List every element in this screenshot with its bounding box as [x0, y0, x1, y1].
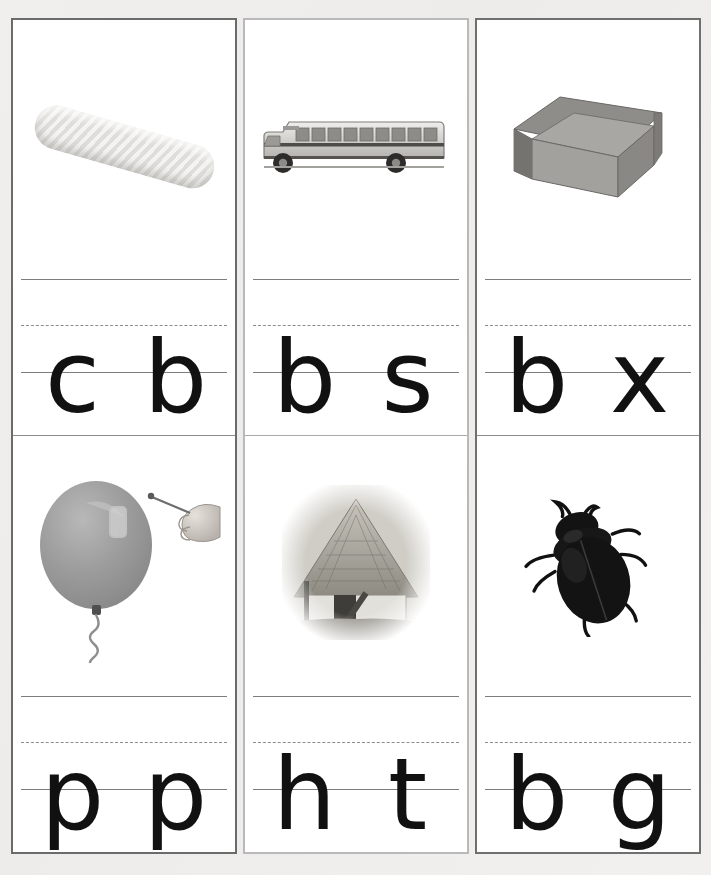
letter-glyph: t — [388, 795, 427, 852]
letter-option[interactable]: b — [485, 279, 588, 372]
picture-area — [13, 436, 235, 690]
picture-area — [245, 20, 467, 273]
letter-choices: p p — [21, 696, 227, 789]
letter-choices: b g — [485, 696, 691, 789]
worksheet-cell-1-bottom[interactable]: p p — [13, 436, 235, 852]
worksheet-cell-2-bottom[interactable]: h t — [245, 436, 467, 852]
letter-glyph: p — [144, 795, 207, 852]
picture-area — [245, 436, 467, 690]
writing-lines: b g — [485, 690, 691, 850]
letter-glyph: s — [381, 378, 433, 436]
worksheet-sheet: c b — [0, 0, 711, 875]
letter-option[interactable]: c — [21, 279, 124, 372]
beetle-icon — [514, 489, 662, 637]
letter-choices: h t — [253, 696, 459, 789]
letter-option[interactable]: x — [588, 279, 691, 372]
writing-lines: h t — [253, 690, 459, 850]
worksheet-columns: c b — [11, 18, 701, 854]
corn-cob-icon — [29, 100, 219, 193]
letter-option[interactable]: b — [253, 279, 356, 372]
worksheet-cell-2-top[interactable]: b s — [245, 20, 467, 436]
letter-glyph: b — [273, 378, 336, 436]
letter-option[interactable]: b — [485, 696, 588, 789]
balloon-with-pin-icon — [24, 463, 224, 663]
picture-area — [13, 20, 235, 273]
letter-glyph: x — [610, 378, 669, 436]
letter-choices: b x — [485, 279, 691, 372]
letter-option[interactable]: h — [253, 696, 356, 789]
letter-glyph: b — [505, 795, 568, 852]
picture-area — [477, 436, 699, 690]
letter-glyph: c — [45, 378, 100, 436]
writing-lines: b x — [485, 273, 691, 433]
letter-option[interactable]: p — [124, 696, 227, 789]
worksheet-cell-1-top[interactable]: c b — [13, 20, 235, 436]
letter-option[interactable]: s — [356, 279, 459, 372]
open-box-icon — [508, 93, 668, 201]
writing-lines: c b — [21, 273, 227, 433]
writing-lines: b s — [253, 273, 459, 433]
letter-glyph: g — [608, 795, 671, 852]
writing-lines: p p — [21, 690, 227, 850]
letter-option[interactable]: p — [21, 696, 124, 789]
worksheet-cell-3-top[interactable]: b x — [477, 20, 699, 436]
picture-area — [477, 20, 699, 273]
letter-option[interactable]: g — [588, 696, 691, 789]
letter-glyph: b — [505, 378, 568, 436]
thatched-hut-icon — [282, 485, 430, 640]
worksheet-column-2: b s — [243, 18, 469, 854]
worksheet-column-3: b x — [475, 18, 701, 854]
letter-glyph: b — [144, 378, 207, 436]
letter-glyph: h — [273, 795, 336, 852]
school-bus-icon — [258, 116, 454, 178]
worksheet-cell-3-bottom[interactable]: b g — [477, 436, 699, 852]
letter-option[interactable]: t — [356, 696, 459, 789]
letter-option[interactable]: b — [124, 279, 227, 372]
letter-choices: c b — [21, 279, 227, 372]
letter-glyph: p — [41, 795, 104, 852]
worksheet-column-1: c b — [11, 18, 237, 854]
letter-choices: b s — [253, 279, 459, 372]
